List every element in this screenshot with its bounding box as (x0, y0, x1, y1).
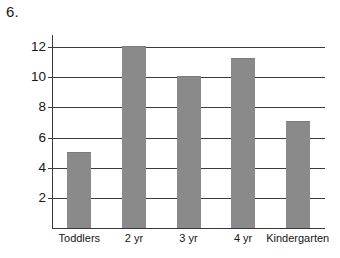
y-tick-label-4: 4 (20, 161, 46, 175)
bar (231, 58, 255, 228)
y-tickmark-4 (48, 168, 52, 169)
y-tick-label-8: 8 (20, 100, 46, 114)
y-tick-label-2: 2 (20, 191, 46, 205)
y-tick-label-10: 10 (20, 70, 46, 84)
bar (177, 76, 201, 228)
x-axis-line (52, 228, 325, 229)
x-axis-tick-labels: Toddlers2 yr3 yr4 yrKindergarten (52, 232, 325, 248)
x-tick-label: Kindergarten (248, 232, 340, 245)
y-tickmark-12 (48, 47, 52, 48)
question-number-label: 6. (6, 4, 19, 19)
y-tickmark-6 (48, 138, 52, 139)
y-tickmark-8 (48, 107, 52, 108)
plot-area (52, 35, 325, 228)
y-axis-line (52, 35, 53, 228)
bar (122, 46, 146, 228)
bar (67, 152, 91, 228)
y-tickmark-2 (48, 198, 52, 199)
y-tick-label-12: 12 (20, 40, 46, 54)
y-tickmark-10 (48, 77, 52, 78)
gridline-12 (52, 47, 325, 48)
bar (286, 121, 310, 228)
bar-chart-figure: 6. 24681012 Toddlers2 yr3 yr4 yrKinderga… (0, 0, 340, 258)
y-tick-label-6: 6 (20, 131, 46, 145)
y-axis-tick-labels: 24681012 (16, 35, 46, 228)
